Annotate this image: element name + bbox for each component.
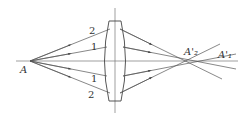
- diagram-canvas: A 2 1 1 2 A'₂ A'₁: [0, 0, 240, 120]
- ray-label-2-bottom: 2: [88, 89, 94, 100]
- ray-label-1-top: 1: [91, 41, 97, 52]
- object-point-label: A: [19, 64, 27, 75]
- ray-label-2-top: 2: [89, 25, 95, 36]
- image-point-1-label: A'₁: [217, 49, 232, 60]
- ray-label-1-bottom: 1: [91, 73, 97, 84]
- lens-diagram: A 2 1 1 2 A'₂ A'₁: [0, 0, 240, 120]
- image-point-2-label: A'₂: [183, 46, 198, 57]
